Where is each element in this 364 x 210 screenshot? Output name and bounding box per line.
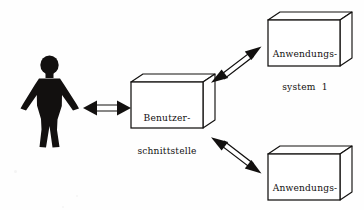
connector-actor-shaft: [95, 105, 119, 111]
node-benutzerschnittstelle[interactable]: [131, 74, 215, 128]
system1-box-front-face: [268, 20, 340, 66]
diagram-vector-layer: [0, 0, 364, 210]
actor-user-figure: [21, 55, 80, 147]
connector-actor-arrowhead-left: [83, 101, 97, 116]
diagram-canvas: Benutzer- schnittstelle Anwendungs- syst…: [0, 0, 364, 210]
connector-system2-shaft: [221, 141, 253, 167]
system1-box-top-face: [268, 12, 352, 20]
system2-box-top-face: [268, 146, 352, 154]
actor-body: [21, 79, 80, 148]
actor-neck: [46, 72, 54, 78]
system2-box-side-face: [340, 146, 352, 200]
connector-system1-shaft: [221, 53, 253, 79]
interface-box-front-face: [131, 82, 203, 128]
system1-box-side-face: [340, 12, 352, 66]
connector-actor-arrowhead-right: [117, 101, 131, 116]
actor-head-icon: [40, 55, 58, 74]
connector-actor-to-interface: [83, 101, 131, 116]
node-anwendungssystem-1[interactable]: [268, 12, 352, 66]
interface-box-top-face: [131, 74, 215, 82]
node-anwendungssystem-2[interactable]: [268, 146, 352, 200]
connector-interface-to-system2: [211, 137, 262, 173]
system2-box-front-face: [268, 154, 340, 200]
connector-interface-to-system1: [211, 47, 262, 83]
